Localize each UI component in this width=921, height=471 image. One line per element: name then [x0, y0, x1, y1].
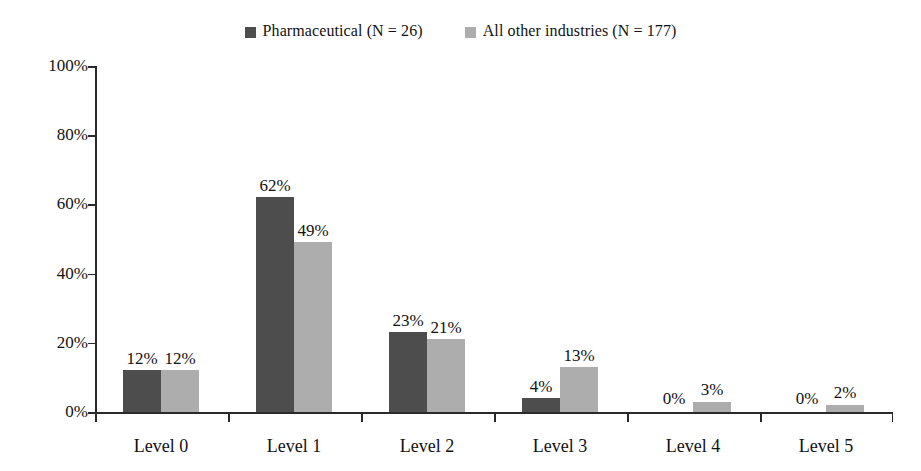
bar-all-other-industries[interactable]	[161, 370, 199, 412]
legend-item-label: Pharmaceutical (N = 26)	[263, 22, 423, 40]
y-axis-tick	[88, 343, 95, 345]
bar-all-other-industries[interactable]	[560, 367, 598, 412]
bar-value-label: 62%	[252, 176, 298, 196]
bar-value-label: 49%	[290, 221, 336, 241]
legend-item-pharmaceutical[interactable]: Pharmaceutical (N = 26)	[245, 22, 423, 40]
bar-value-label: 4%	[518, 377, 564, 397]
square-swatch-icon	[465, 27, 476, 38]
x-axis-tick	[494, 413, 496, 422]
y-axis-tick-label: 40%	[18, 264, 88, 284]
x-axis-tick	[95, 413, 97, 422]
plot-area: 100% 80% 60% 40% 20% 0% 12% 12% 62%	[95, 66, 893, 412]
y-axis-tick	[88, 274, 95, 276]
bar-all-other-industries[interactable]	[294, 242, 332, 412]
x-axis-tick	[228, 413, 230, 422]
bar-value-label: 21%	[423, 318, 469, 338]
legend-item-all-other-industries[interactable]: All other industries (N = 177)	[465, 22, 677, 40]
bar-group-level-2: 23% 21%	[389, 66, 465, 412]
bar-chart: Pharmaceutical (N = 26) All other indust…	[0, 0, 921, 471]
bar-all-other-industries[interactable]	[427, 339, 465, 412]
bar-pharmaceutical[interactable]	[123, 370, 161, 412]
bar-group-level-3: 4% 13%	[522, 66, 598, 412]
bar-group-level-1: 62% 49%	[256, 66, 332, 412]
bar-value-label: 3%	[689, 380, 735, 400]
y-axis-tick-label: 0%	[18, 402, 88, 422]
y-axis-tick	[88, 66, 95, 68]
bar-all-other-industries[interactable]	[693, 402, 731, 412]
y-axis-tick	[88, 412, 95, 414]
x-axis-category-label: Level 1	[224, 436, 364, 457]
bar-value-label: 12%	[157, 349, 203, 369]
bar-value-label: 2%	[822, 383, 868, 403]
y-axis-tick-label: 80%	[18, 125, 88, 145]
bar-group-level-5: 0% 2%	[788, 66, 864, 412]
x-axis-category-label: Level 0	[91, 436, 231, 457]
bar-pharmaceutical[interactable]	[389, 332, 427, 412]
x-axis-tick	[892, 413, 894, 422]
legend-item-label: All other industries (N = 177)	[483, 22, 677, 40]
y-axis-tick-label: 100%	[18, 56, 88, 76]
y-axis-tick-label: 20%	[18, 333, 88, 353]
y-axis-line	[95, 66, 97, 412]
x-axis-category-label: Level 3	[490, 436, 630, 457]
x-axis-tick	[627, 413, 629, 422]
square-swatch-icon	[245, 27, 256, 38]
bar-value-label: 13%	[556, 346, 602, 366]
x-axis-category-label: Level 5	[756, 436, 896, 457]
x-axis-tick	[361, 413, 363, 422]
bar-group-level-0: 12% 12%	[123, 66, 199, 412]
y-axis-tick-label: 60%	[18, 194, 88, 214]
bar-all-other-industries[interactable]	[826, 405, 864, 412]
x-axis-category-label: Level 2	[357, 436, 497, 457]
x-axis-category-label: Level 4	[623, 436, 763, 457]
chart-legend: Pharmaceutical (N = 26) All other indust…	[0, 22, 921, 40]
y-axis-tick	[88, 204, 95, 206]
bar-group-level-4: 0% 3%	[655, 66, 731, 412]
bar-pharmaceutical[interactable]	[522, 398, 560, 412]
x-axis-tick	[760, 413, 762, 422]
bar-pharmaceutical[interactable]	[256, 197, 294, 412]
y-axis-tick	[88, 135, 95, 137]
